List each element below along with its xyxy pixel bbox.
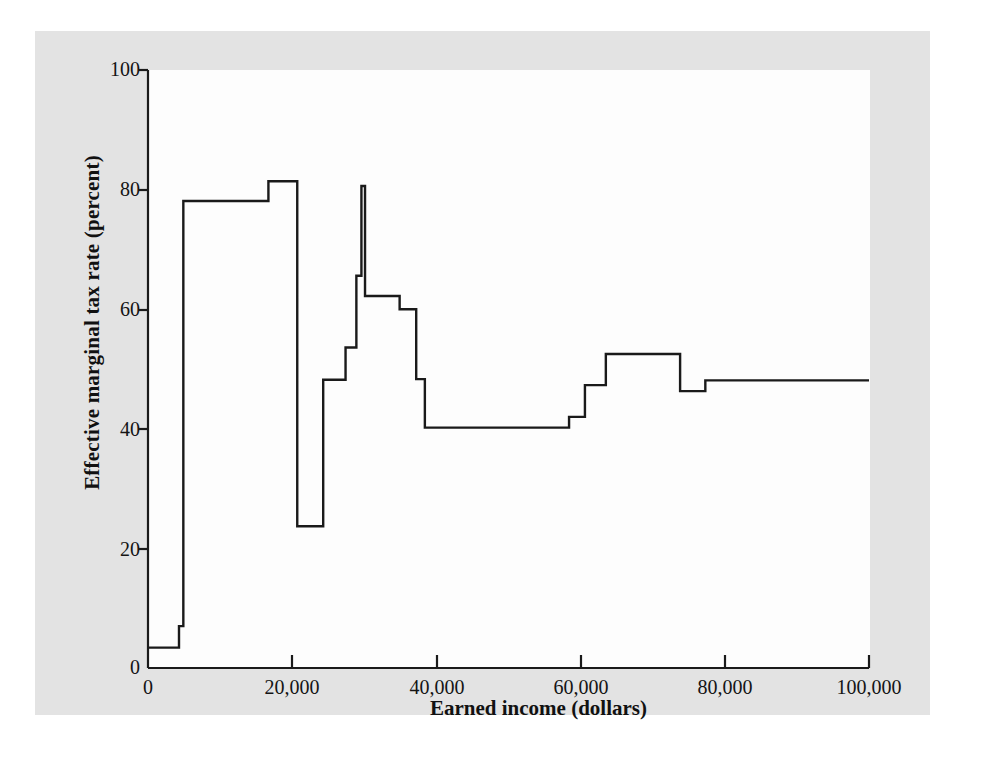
chart-svg — [0, 0, 993, 772]
data-series-line — [148, 181, 869, 647]
y-axis-ticks — [138, 70, 148, 549]
axes-group — [138, 70, 869, 668]
x-axis-ticks — [292, 655, 869, 668]
figure-container: Effective marginal tax rate (percent) Ea… — [0, 0, 993, 772]
